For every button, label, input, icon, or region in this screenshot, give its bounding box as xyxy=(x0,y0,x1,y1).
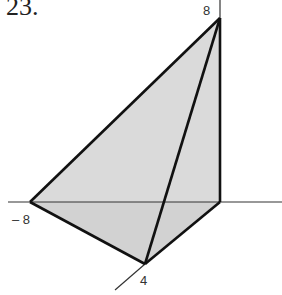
tetrahedron-diagram: 8 – 8 4 xyxy=(0,0,282,295)
y-intercept-label: 4 xyxy=(140,273,147,288)
z-intercept-label: 8 xyxy=(203,3,210,18)
x-intercept-label: – 8 xyxy=(12,212,30,227)
shaded-face-bottom xyxy=(30,202,220,264)
